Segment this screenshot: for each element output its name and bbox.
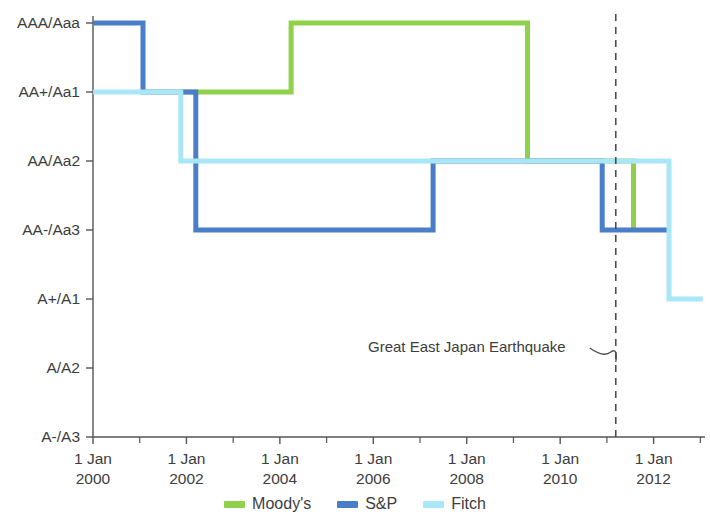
x-axis-tick-label: 1 Jan2012 bbox=[609, 449, 699, 489]
x-axis-tick-label-year: 2002 bbox=[141, 469, 231, 489]
x-axis-tick-label-year: 2008 bbox=[422, 469, 512, 489]
series-line-moody-s bbox=[181, 23, 634, 230]
legend-label: Moody's bbox=[252, 495, 311, 513]
legend-item-s-p[interactable]: S&P bbox=[337, 495, 397, 513]
legend-label: S&P bbox=[365, 495, 397, 513]
x-axis-tick-label-day: 1 Jan bbox=[422, 449, 512, 469]
y-axis-ticks bbox=[86, 23, 93, 437]
y-axis-tick-label: AA/Aa2 bbox=[0, 152, 80, 170]
x-axis-tick-label-day: 1 Jan bbox=[235, 449, 325, 469]
x-axis-tick-label-year: 2012 bbox=[609, 469, 699, 489]
series-line-fitch bbox=[93, 92, 703, 299]
x-axis-tick-label-year: 2010 bbox=[515, 469, 605, 489]
x-axis-tick-label: 1 Jan2002 bbox=[141, 449, 231, 489]
y-axis-tick-label: A+/A1 bbox=[0, 290, 80, 308]
y-axis-tick-label: AA-/Aa3 bbox=[0, 221, 80, 239]
earthquake-annotation-label: Great East Japan Earthquake bbox=[368, 338, 566, 355]
x-axis-tick-label: 1 Jan2004 bbox=[235, 449, 325, 489]
x-axis-tick-label-day: 1 Jan bbox=[515, 449, 605, 469]
chart-legend: Moody'sS&PFitch bbox=[0, 495, 710, 513]
y-axis-tick-label: A-/A3 bbox=[0, 428, 80, 446]
x-axis-tick-label-year: 2004 bbox=[235, 469, 325, 489]
legend-swatch-icon bbox=[224, 501, 245, 508]
x-axis-tick-label-day: 1 Jan bbox=[48, 449, 138, 469]
x-axis-tick-label: 1 Jan2008 bbox=[422, 449, 512, 489]
x-axis-tick-label-day: 1 Jan bbox=[328, 449, 418, 469]
series-lines bbox=[93, 23, 703, 299]
credit-rating-chart: AAA/AaaAA+/Aa1AA/Aa2AA-/Aa3A+/A1A/A2A-/A… bbox=[0, 0, 710, 523]
x-axis-tick-label-year: 2000 bbox=[48, 469, 138, 489]
x-axis-tick-label: 1 Jan2000 bbox=[48, 449, 138, 489]
legend-item-moody-s[interactable]: Moody's bbox=[224, 495, 311, 513]
x-axis-tick-label-day: 1 Jan bbox=[141, 449, 231, 469]
y-axis-tick-label: AA+/Aa1 bbox=[0, 83, 80, 101]
legend-swatch-icon bbox=[423, 501, 444, 508]
earthquake-leader-line bbox=[590, 348, 616, 362]
legend-swatch-icon bbox=[337, 501, 358, 508]
legend-item-fitch[interactable]: Fitch bbox=[423, 495, 486, 513]
chart-plot-area bbox=[0, 0, 710, 523]
y-axis-tick-label: AAA/Aaa bbox=[0, 14, 80, 32]
x-axis-tick-label-year: 2006 bbox=[328, 469, 418, 489]
y-axis-tick-label: A/A2 bbox=[0, 359, 80, 377]
x-axis-ticks bbox=[93, 437, 700, 444]
x-axis-tick-label: 1 Jan2010 bbox=[515, 449, 605, 489]
x-axis-tick-label-day: 1 Jan bbox=[609, 449, 699, 469]
x-axis-tick-label: 1 Jan2006 bbox=[328, 449, 418, 489]
legend-label: Fitch bbox=[451, 495, 486, 513]
